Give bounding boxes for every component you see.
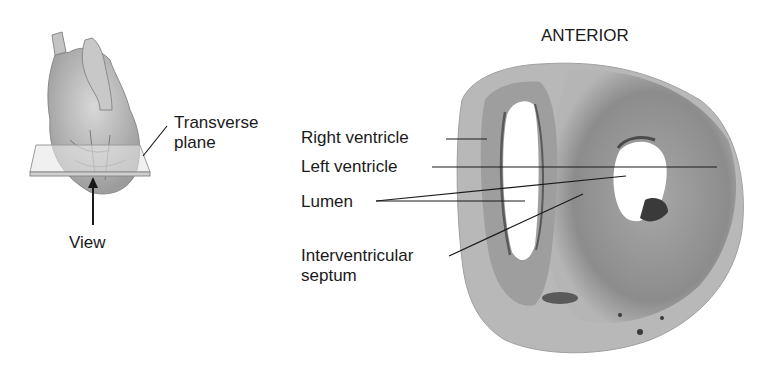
transverse-plane-label-line2: plane <box>174 133 258 153</box>
septum-label-line1: Interventricular <box>301 246 413 266</box>
diagram-artwork <box>0 0 777 373</box>
view-label: View <box>69 233 106 253</box>
heart-cross-section <box>457 63 743 353</box>
septum-label-line2: septum <box>301 266 413 286</box>
anterior-heading: ANTERIOR <box>541 26 629 46</box>
transverse-plane-label-line1: Transverse <box>174 113 258 133</box>
lumen-label: Lumen <box>301 192 353 212</box>
left-ventricle-label: Left ventricle <box>301 157 397 177</box>
right-ventricle-label: Right ventricle <box>301 128 409 148</box>
transverse-plane-label: Transverse plane <box>174 113 258 153</box>
heart-inset-icon <box>30 32 167 225</box>
interventricular-septum-label: Interventricular septum <box>301 246 413 286</box>
